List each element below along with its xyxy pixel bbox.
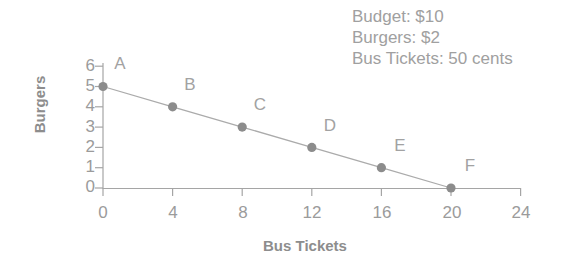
data-point-d (307, 143, 316, 152)
data-point-a (98, 82, 107, 91)
budget-line (103, 87, 451, 189)
plot-area (0, 0, 565, 270)
data-point-c (238, 123, 247, 132)
budget-constraint-chart: Budget: $10 Burgers: $2 Bus Tickets: 50 … (0, 0, 565, 270)
data-point-e (377, 163, 386, 172)
data-point-b (168, 102, 177, 111)
x-axis-ticks (103, 188, 521, 196)
data-point-f (446, 183, 455, 192)
